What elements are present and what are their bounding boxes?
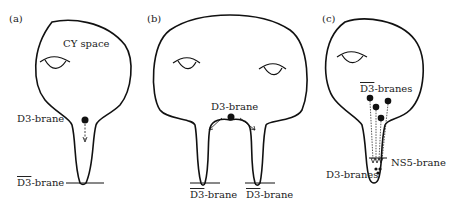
anti-d3-branes-label-c: D3-branes: [360, 84, 412, 94]
anti-d3-dot-2: [373, 104, 380, 111]
anti-d3-overline: D3: [246, 189, 260, 200]
d3-brane-label-a: D3-brane: [17, 114, 64, 124]
d3-dot-b: [228, 114, 235, 121]
anti-d3-overline: D3: [17, 177, 31, 188]
d3-brane-label-b: D3-brane: [211, 102, 258, 112]
anti-d3-overline: D3: [190, 189, 204, 200]
anti-d3-overline: D3: [360, 83, 374, 94]
cycle-icon-a: [40, 57, 70, 69]
anti-d3-dot-4: [378, 115, 385, 122]
cycle-icon-b-left: [173, 58, 200, 69]
d3-branes-label-c: D3-branes: [326, 170, 378, 180]
d3-dot-a: [82, 117, 89, 124]
anti-d3-suffix: -brane: [260, 189, 293, 200]
cy-space-label: CY space: [63, 39, 109, 49]
panel-label-b: (b): [147, 14, 161, 24]
panel-label-c: (c): [322, 14, 335, 24]
anti-d3-brane-label-b-right: D3-brane: [246, 190, 293, 200]
anti-d3-suffix: -brane: [31, 177, 64, 188]
cycle-icon-c: [337, 52, 367, 63]
cycle-icon-b-right: [259, 64, 286, 75]
anti-d3-dot-3: [385, 98, 392, 105]
anti-d3-brane-label-b-left: D3-brane: [190, 190, 237, 200]
ns5-brane-label: NS5-brane: [391, 158, 446, 168]
panel-label-a: (a): [9, 14, 23, 24]
anti-d3-dot-1: [367, 95, 374, 102]
anti-d3-suffix: -branes: [374, 83, 412, 94]
anti-d3-brane-label-a: D3-brane: [17, 178, 64, 188]
anti-d3-suffix: -brane: [204, 189, 237, 200]
